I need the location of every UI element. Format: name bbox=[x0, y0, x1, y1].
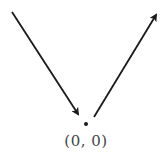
outgoing-arrow bbox=[94, 15, 156, 117]
incoming-arrow bbox=[12, 12, 78, 114]
diagram-canvas bbox=[0, 0, 168, 153]
origin-point bbox=[84, 122, 88, 126]
origin-label: (0, 0) bbox=[56, 132, 116, 150]
